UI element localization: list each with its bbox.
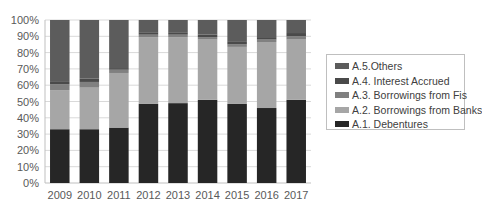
- legend-label: A.2. Borrowings from Banks: [352, 104, 482, 116]
- bar-segment: [286, 20, 306, 33]
- bar-segment: [286, 100, 306, 183]
- legend-label: A.3. Borrowings from Fis: [352, 89, 467, 101]
- bar-segment: [109, 68, 129, 70]
- bar-segment: [168, 35, 188, 37]
- bar-segment: [50, 82, 70, 84]
- bar-segment: [168, 37, 188, 103]
- y-tick-label: 40%: [17, 112, 39, 124]
- bar-segment: [139, 104, 159, 183]
- bar-segment: [80, 82, 100, 88]
- bar-segment: [139, 37, 159, 104]
- legend-label: A.1. Debentures: [352, 118, 428, 130]
- y-tick-label: 20%: [17, 144, 39, 156]
- bar-segment: [80, 129, 100, 183]
- x-tick-label: 2009: [48, 189, 72, 201]
- bar-segment: [227, 41, 247, 44]
- bar-segment: [168, 32, 188, 34]
- x-tick-label: 2017: [284, 189, 308, 201]
- bar-segment: [198, 40, 218, 100]
- bar-segment: [198, 37, 218, 39]
- bar-segment: [109, 128, 129, 183]
- bar-segment: [227, 20, 247, 41]
- bar-segment: [50, 84, 70, 90]
- legend-swatch-icon: [335, 121, 349, 127]
- legend-swatch-icon: [335, 107, 349, 113]
- bar-segment: [50, 90, 70, 129]
- bar-segment: [286, 33, 306, 36]
- y-axis: 0%10%20%30%40%50%60%70%80%90%100%: [11, 14, 45, 189]
- bar-segment: [80, 79, 100, 82]
- bars: [50, 20, 306, 183]
- x-tick-label: 2016: [254, 189, 278, 201]
- bar-segment: [80, 20, 100, 79]
- bar-segment: [198, 35, 218, 37]
- legend-label: A.5.Others: [352, 60, 402, 72]
- legend-swatch-icon: [335, 63, 349, 69]
- y-tick-label: 50%: [17, 96, 39, 108]
- bar-segment: [227, 44, 247, 46]
- legend-swatch-icon: [335, 92, 349, 98]
- legend-item-borrowings-fis: A.3. Borrowings from Fis: [335, 88, 464, 103]
- legend: A.5.Others A.4. Interest Accrued A.3. Bo…: [326, 54, 465, 130]
- bar-segment: [50, 129, 70, 183]
- bar-segment: [80, 88, 100, 130]
- bar-segment: [286, 36, 306, 39]
- y-tick-label: 60%: [17, 79, 39, 91]
- bar-segment: [139, 35, 159, 37]
- y-tick-label: 90%: [17, 30, 39, 42]
- legend-item-others: A.5.Others: [335, 59, 464, 74]
- legend-item-borrowings-banks: A.2. Borrowings from Banks: [335, 103, 464, 118]
- bar-segment: [168, 20, 188, 32]
- bar-segment: [109, 20, 129, 68]
- bar-segment: [168, 103, 188, 183]
- x-tick-label: 2015: [225, 189, 249, 201]
- bar-segment: [198, 100, 218, 183]
- bar-segment: [257, 20, 277, 37]
- x-tick-label: 2014: [195, 189, 219, 201]
- y-tick-label: 0%: [23, 177, 39, 189]
- y-tick-label: 30%: [17, 128, 39, 140]
- y-tick-label: 70%: [17, 63, 39, 75]
- legend-label: A.4. Interest Accrued: [352, 75, 449, 87]
- bar-segment: [109, 73, 129, 128]
- legend-item-interest-accrued: A.4. Interest Accrued: [335, 74, 464, 89]
- bar-segment: [286, 40, 306, 100]
- bar-segment: [227, 104, 247, 183]
- x-tick-label: 2012: [136, 189, 160, 201]
- y-tick-label: 100%: [11, 14, 39, 26]
- legend-item-debentures: A.1. Debentures: [335, 117, 464, 132]
- x-tick-label: 2013: [166, 189, 190, 201]
- bar-segment: [227, 47, 247, 104]
- x-tick-label: 2010: [77, 189, 101, 201]
- bar-segment: [50, 20, 70, 82]
- x-tick-label: 2011: [107, 189, 131, 201]
- bar-segment: [257, 37, 277, 39]
- bar-segment: [139, 20, 159, 32]
- bar-segment: [139, 32, 159, 34]
- y-tick-label: 80%: [17, 47, 39, 59]
- legend-swatch-icon: [335, 78, 349, 84]
- bar-segment: [198, 20, 218, 35]
- bar-segment: [109, 70, 129, 73]
- bar-segment: [257, 108, 277, 183]
- y-tick-label: 10%: [17, 161, 39, 173]
- bar-segment: [257, 40, 277, 42]
- x-axis: 200920102011201220132014201520162017: [48, 189, 309, 201]
- bar-segment: [257, 42, 277, 108]
